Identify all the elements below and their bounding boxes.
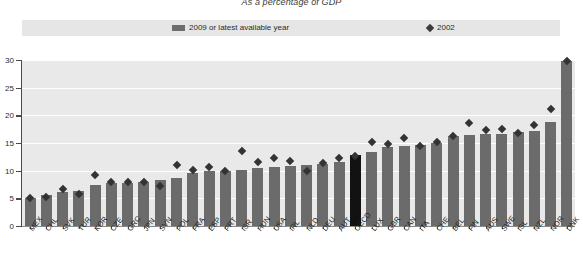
bar-fin	[464, 135, 475, 226]
bar-aus	[480, 134, 491, 226]
y-axis-tick	[16, 171, 21, 172]
marker-kor	[91, 171, 99, 179]
marker-hun	[254, 158, 262, 166]
marker-can	[400, 134, 408, 142]
legend-label-bars: 2009 or latest available year	[189, 24, 289, 32]
marker-isr	[237, 147, 245, 155]
marker-nzl	[530, 120, 538, 128]
bar-irl	[285, 166, 296, 226]
y-axis-tick-label: 25	[0, 84, 14, 93]
marker-irl	[286, 156, 294, 164]
x-axis-labels: MEXCHLSVKTURKORCZEGRCJPNSVNPOLFRAESPPRTI…	[22, 228, 575, 268]
bar-swatch-icon	[172, 25, 185, 31]
marker-nor	[546, 105, 554, 113]
y-axis-tick	[16, 143, 21, 144]
bar-swe	[496, 134, 507, 226]
bars-layer	[22, 60, 575, 226]
bar-bel	[448, 136, 459, 226]
bar-gbr	[382, 147, 393, 226]
marker-pol	[172, 161, 180, 169]
y-axis-tick-label: 15	[0, 139, 14, 148]
y-axis-tick	[16, 88, 21, 89]
chart-subtitle: As a percentage of GDP	[0, 0, 583, 7]
y-axis-tick-label: 5	[0, 194, 14, 203]
bar-ita	[415, 145, 426, 226]
marker-fin	[465, 119, 473, 127]
marker-usa	[270, 154, 278, 162]
y-axis-tick	[16, 115, 21, 116]
y-axis-tick	[16, 226, 21, 227]
marker-lux	[367, 138, 375, 146]
bar-deu	[317, 164, 328, 226]
chart-legend: 2009 or latest available year 2002	[22, 20, 560, 36]
y-axis-tick-label: 10	[0, 167, 14, 176]
bar-che	[431, 143, 442, 226]
y-axis-tick-label: 30	[0, 56, 14, 65]
y-axis-tick-label: 0	[0, 222, 14, 231]
y-axis-tick	[16, 60, 21, 61]
bar-oecd	[350, 155, 361, 226]
chart-container: As a percentage of GDP 2009 or latest av…	[0, 0, 583, 268]
bar-nzl	[529, 131, 540, 226]
legend-label-markers: 2002	[437, 24, 455, 32]
bar-can	[399, 146, 410, 226]
y-axis-tick	[16, 198, 21, 199]
marker-swe	[498, 124, 506, 132]
bar-isl	[513, 132, 524, 226]
legend-item-bars: 2009 or latest available year	[172, 20, 289, 36]
bar-nor	[545, 122, 556, 226]
y-axis-tick-label: 20	[0, 111, 14, 120]
bar-dnk	[561, 61, 572, 226]
diamond-marker-icon	[426, 24, 434, 32]
legend-item-markers: 2002	[427, 20, 455, 36]
